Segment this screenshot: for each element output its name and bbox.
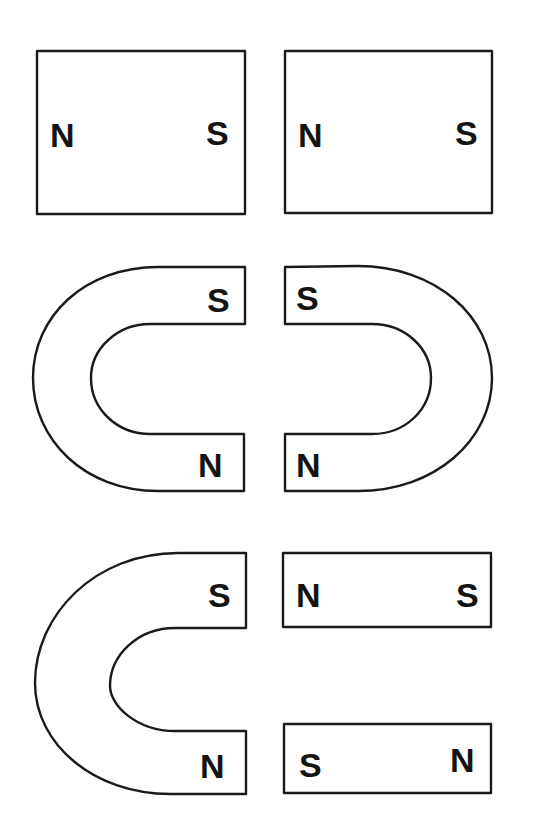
pole-label-north: N <box>296 576 321 614</box>
pole-label-north: N <box>298 116 323 154</box>
row3-bar-magnet-top: N S <box>283 553 491 627</box>
pole-label-south: S <box>455 114 478 152</box>
pole-label-south: S <box>208 576 231 614</box>
magnets-diagram: N S N S S N S N S N N S S N <box>0 0 549 839</box>
pole-label-north: N <box>296 446 321 484</box>
pole-label-north: N <box>50 116 75 154</box>
pole-label-south: S <box>299 746 322 784</box>
pole-label-south: S <box>296 279 319 317</box>
pole-label-south: S <box>207 281 230 319</box>
pole-label-north: N <box>200 747 225 785</box>
row1-bar-magnet-left: N S <box>37 51 245 214</box>
pole-label-north: N <box>450 741 475 779</box>
pole-label-north: N <box>198 446 223 484</box>
row1-bar-magnet-right: N S <box>285 51 492 213</box>
pole-label-south: S <box>206 114 229 152</box>
pole-label-south: S <box>456 576 479 614</box>
row3-horseshoe-magnet: S N <box>35 553 246 794</box>
row2-horseshoe-magnet-left: S N <box>33 267 245 491</box>
row3-bar-magnet-bottom: S N <box>284 724 491 793</box>
row2-horseshoe-magnet-right: S N <box>285 266 492 491</box>
